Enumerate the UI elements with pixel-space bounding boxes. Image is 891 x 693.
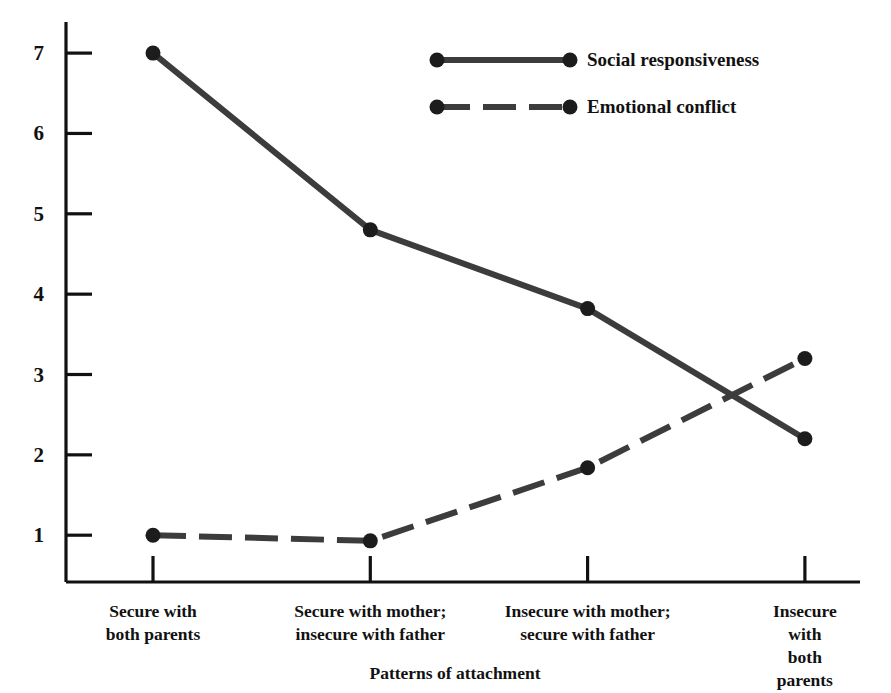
data-point-marker [797, 351, 812, 366]
legend-sample-lines [430, 53, 578, 115]
legend-label-2: Emotional conflict [587, 96, 736, 118]
x-axis-tick-label: Secure with mother; insecure with father [294, 600, 446, 646]
legend-marker [430, 53, 445, 68]
data-series-group [146, 46, 813, 549]
x-axis-tick-label: Insecure with both parents [762, 600, 848, 692]
data-point-marker [363, 222, 378, 237]
data-point-marker [363, 533, 378, 548]
y-axis-ticks [66, 53, 92, 535]
chart-plot-area [0, 0, 891, 693]
y-axis-tick-label: 4 [14, 282, 44, 307]
data-point-marker [797, 431, 812, 446]
data-point-marker [146, 528, 161, 543]
legend-marker [563, 53, 578, 68]
y-axis-tick-label: 5 [14, 201, 44, 226]
series-line-2 [153, 358, 805, 540]
y-axis-tick-label: 3 [14, 362, 44, 387]
legend-marker [563, 100, 578, 115]
x-axis-ticks [153, 556, 805, 582]
legend-marker [430, 100, 445, 115]
data-point-marker [580, 301, 595, 316]
x-axis-title: Patterns of attachment [369, 663, 540, 684]
data-point-marker [580, 460, 595, 475]
chart-figure: 1234567 Secure with both parentsSecure w… [0, 0, 891, 693]
x-axis-tick-label: Insecure with mother; secure with father [505, 600, 671, 646]
data-point-marker [146, 46, 161, 61]
legend-label-1: Social responsiveness [587, 49, 759, 71]
y-axis-tick-label: 2 [14, 442, 44, 467]
y-axis-tick-label: 1 [14, 523, 44, 548]
y-axis-tick-label: 6 [14, 121, 44, 146]
y-axis-tick-label: 7 [14, 41, 44, 66]
x-axis-tick-label: Secure with both parents [106, 600, 201, 646]
